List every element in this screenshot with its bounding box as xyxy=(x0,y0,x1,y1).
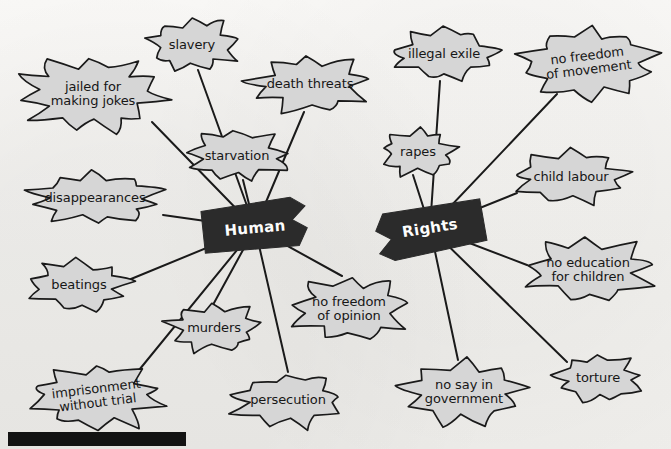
burst-node-child-labour[interactable] xyxy=(516,147,633,205)
burst-shape-death-threats xyxy=(241,56,368,114)
burst-node-jailed-for-making-jokes[interactable] xyxy=(19,59,172,135)
burst-node-imprisonment-without-trial[interactable] xyxy=(30,366,167,431)
burst-node-beatings[interactable] xyxy=(29,257,135,312)
burst-shape-no-say-in-government xyxy=(395,357,530,428)
burst-node-death-threats[interactable] xyxy=(241,56,368,114)
burst-node-no-freedom-of-opinion[interactable] xyxy=(292,278,408,339)
burst-node-torture[interactable] xyxy=(551,355,642,403)
burst-shape-rapes xyxy=(384,127,460,177)
burst-shape-no-freedom-of-opinion xyxy=(292,278,408,339)
burst-shapes-layer xyxy=(0,0,671,449)
burst-node-illegal-exile[interactable] xyxy=(394,26,502,81)
burst-shape-disappearances xyxy=(24,170,166,223)
black-bar-decoration xyxy=(8,432,186,446)
burst-shape-imprisonment-without-trial xyxy=(30,366,167,431)
burst-shape-child-labour xyxy=(516,147,633,205)
banner-rights[interactable] xyxy=(373,197,488,263)
burst-shape-slavery xyxy=(145,18,238,71)
burst-shape-torture xyxy=(551,355,642,403)
mind-map-canvas: jailed for making jokesslaverydeath thre… xyxy=(0,0,671,449)
burst-shape-murders xyxy=(162,303,261,353)
burst-shape-starvation xyxy=(187,131,288,181)
burst-node-disappearances[interactable] xyxy=(24,170,166,223)
burst-node-murders[interactable] xyxy=(162,303,261,353)
banner-human-shape xyxy=(200,196,309,256)
burst-shape-no-freedom-of-movement xyxy=(515,25,662,102)
burst-node-slavery[interactable] xyxy=(145,18,238,71)
banner-human[interactable] xyxy=(200,196,309,256)
burst-node-rapes[interactable] xyxy=(384,127,460,177)
burst-node-persecution[interactable] xyxy=(229,375,339,430)
burst-shape-no-education-for-children xyxy=(525,237,654,300)
burst-node-no-say-in-government[interactable] xyxy=(395,357,530,428)
burst-shape-beatings xyxy=(29,257,135,312)
burst-shape-jailed-for-making-jokes xyxy=(19,59,172,135)
burst-node-no-education-for-children[interactable] xyxy=(525,237,654,300)
burst-shape-persecution xyxy=(229,375,339,430)
banner-rights-shape xyxy=(373,197,488,263)
burst-node-no-freedom-of-movement[interactable] xyxy=(515,25,662,102)
burst-shape-illegal-exile xyxy=(394,26,502,81)
burst-node-starvation[interactable] xyxy=(187,131,288,181)
